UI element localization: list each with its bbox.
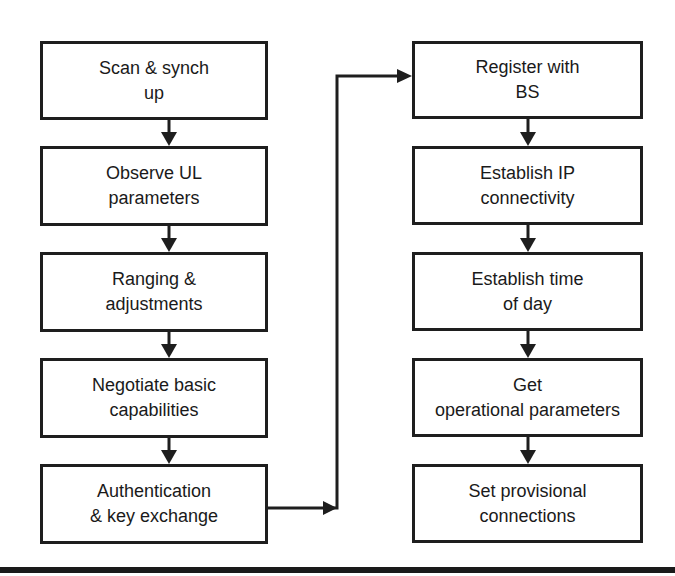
step-label-line1: Establish IP: [480, 161, 575, 186]
arrowhead-icon: [161, 450, 177, 464]
step-label-line1: Observe UL: [106, 161, 202, 186]
bottom-divider: [0, 567, 675, 573]
step-get-operational-parameters: Get operational parameters: [412, 358, 643, 437]
step-establish-ip-connectivity: Establish IP connectivity: [412, 146, 643, 225]
step-establish-time-of-day: Establish time of day: [412, 252, 643, 331]
step-scan-synch-up: Scan & synch up: [40, 41, 268, 120]
step-label-line1: Scan & synch: [99, 56, 209, 81]
arrowhead-right-icon: [397, 69, 412, 83]
step-ranging-adjustments: Ranging & adjustments: [40, 252, 268, 332]
arrowhead-icon: [161, 344, 177, 358]
step-authentication-key-exchange: Authentication & key exchange: [40, 464, 268, 544]
step-label-line1: Set provisional: [468, 479, 586, 504]
step-label-line1: Register with: [475, 55, 579, 80]
step-label-line2: parameters: [106, 186, 202, 211]
step-label-line2: adjustments: [105, 292, 202, 317]
step-label-line1: Authentication: [90, 479, 218, 504]
step-label-line2: operational parameters: [435, 398, 620, 423]
step-label-line2: of day: [471, 292, 583, 317]
arrowhead-icon: [520, 132, 536, 146]
arrowhead-icon: [161, 238, 177, 252]
step-register-with-bs: Register with BS: [412, 41, 643, 119]
arrowhead-right-icon: [323, 501, 337, 515]
step-negotiate-basic-capabilities: Negotiate basic capabilities: [40, 358, 268, 438]
step-label-line1: Negotiate basic: [92, 373, 216, 398]
step-set-provisional-connections: Set provisional connections: [412, 464, 643, 543]
step-label-line2: up: [99, 81, 209, 106]
step-label-line1: Establish time: [471, 267, 583, 292]
step-observe-ul-parameters: Observe UL parameters: [40, 146, 268, 226]
step-label-line2: capabilities: [92, 398, 216, 423]
step-label-line2: connectivity: [480, 186, 575, 211]
arrowhead-icon: [520, 450, 536, 464]
connector-line: [268, 76, 398, 508]
step-label-line1: Get: [435, 373, 620, 398]
step-label-line1: Ranging &: [105, 267, 202, 292]
step-label-line2: & key exchange: [90, 504, 218, 529]
arrowhead-icon: [161, 132, 177, 146]
arrowhead-icon: [520, 344, 536, 358]
arrowhead-icon: [520, 238, 536, 252]
step-label-line2: BS: [475, 80, 579, 105]
step-label-line2: connections: [468, 504, 586, 529]
